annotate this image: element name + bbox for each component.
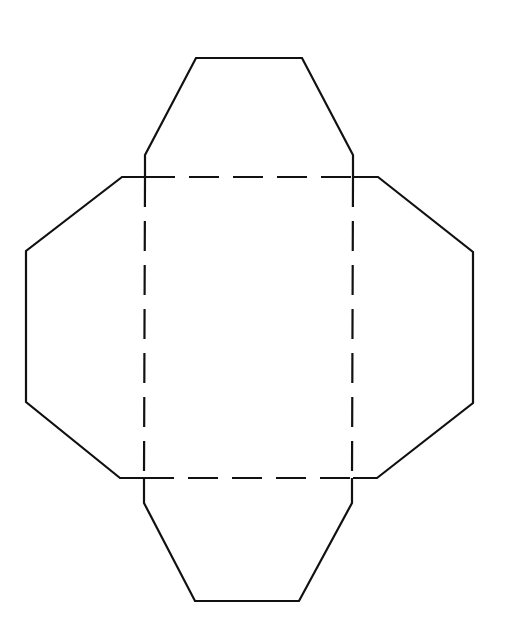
cut-lines xyxy=(26,58,473,601)
flap-bottom xyxy=(144,478,352,601)
fold-lines xyxy=(144,177,353,478)
right-fold-line xyxy=(352,177,353,478)
left-fold-line xyxy=(144,177,145,478)
flap-right xyxy=(353,177,473,478)
envelope-template-diagram xyxy=(0,0,515,641)
flap-top xyxy=(145,58,353,177)
flap-left xyxy=(26,177,145,478)
envelope-net-svg xyxy=(0,0,515,641)
